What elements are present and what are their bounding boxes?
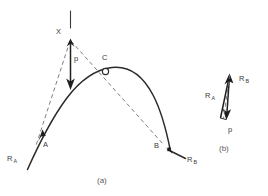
trajectory-curve xyxy=(28,67,171,169)
label-vector-rb-panel-a: R B xyxy=(187,155,197,165)
point-marker-b xyxy=(167,148,171,152)
label-point-c: C xyxy=(102,53,108,62)
inset-label-rb-base: R xyxy=(239,74,245,83)
inset-label-ra-base: R xyxy=(205,91,211,100)
label-point-b: B xyxy=(154,141,159,150)
panel-caption-a: (a) xyxy=(97,176,107,185)
label-point-x: X xyxy=(56,27,61,36)
figure-canvas: X p C A B R A R B (a) xyxy=(0,0,268,196)
panel-a: X p C A B R A R B (a) xyxy=(7,11,197,185)
label-vector-ra-panel-b: R A xyxy=(205,91,215,101)
figure-container: X p C A B R A R B (a) xyxy=(0,0,268,196)
inset-label-ra-subscript: A xyxy=(211,95,215,101)
trajectory-tail-segment xyxy=(171,151,186,159)
inset-triangle-base xyxy=(221,118,227,120)
dashed-chord-line-right xyxy=(71,41,163,144)
label-vector-p: p xyxy=(74,54,78,63)
point-marker-c xyxy=(102,68,108,74)
inset-label-vector-p: p xyxy=(228,125,232,134)
label-vector-rb-subscript: B xyxy=(193,159,197,165)
label-vector-rb-panel-b: R B xyxy=(239,74,249,84)
panel-caption-b: (b) xyxy=(219,144,229,153)
label-vector-ra-panel-a: R A xyxy=(7,154,17,164)
dashed-tangent-line-left xyxy=(36,41,71,147)
inset-label-rb-subscript: B xyxy=(245,78,249,84)
label-vector-ra-subscript: A xyxy=(13,158,17,164)
label-vector-rb-base: R xyxy=(187,155,193,164)
panel-b: R A R B p (b) xyxy=(205,74,249,154)
label-point-a: A xyxy=(43,140,48,149)
label-vector-ra-base: R xyxy=(7,154,13,163)
